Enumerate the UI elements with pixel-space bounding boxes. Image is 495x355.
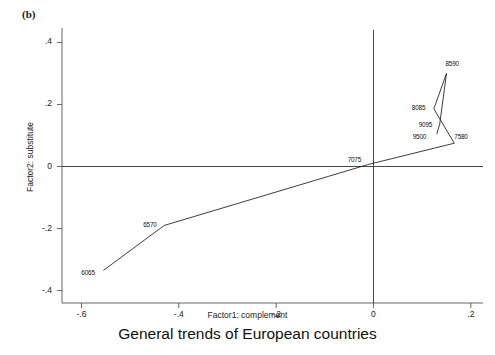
data-series-group: [103, 73, 454, 270]
data-point-label: 6570: [143, 221, 156, 228]
x-axis-label: Factor1: complement: [0, 310, 495, 320]
y-tick-label: .4: [22, 36, 52, 46]
chart-title: General trends of European countries: [0, 325, 495, 343]
data-point-label: 6065: [81, 269, 94, 276]
plot-canvas: [0, 0, 495, 355]
y-tick-label: -.4: [22, 285, 52, 295]
data-point-label: 7075: [348, 156, 361, 163]
data-polyline: [103, 73, 454, 270]
data-point-label: 7580: [454, 133, 467, 140]
data-point-label: 8590: [445, 60, 458, 67]
panel-label: (b): [22, 8, 35, 20]
data-point-label: 8085: [412, 104, 425, 111]
y-axis-label: Factor2: substitute: [25, 67, 35, 247]
axes-group: [57, 28, 483, 308]
chart-figure: (b) -.6-.4-.20.2-.4-.20.2.4 606565707075…: [0, 0, 495, 355]
data-point-label: 9095: [419, 121, 432, 128]
data-point-label: 9500: [413, 133, 426, 140]
